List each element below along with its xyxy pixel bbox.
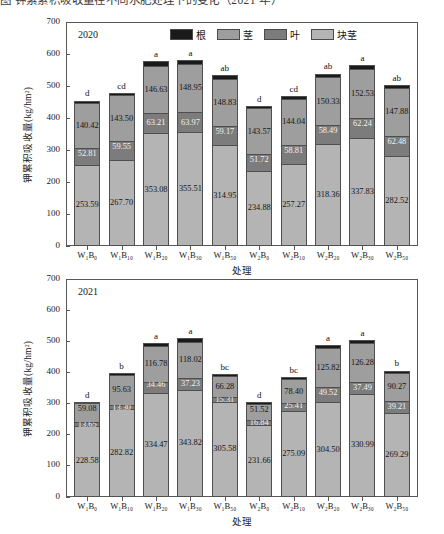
bar-segment-tuber: 330.99: [349, 394, 375, 497]
bar-segment-leaf: 59.17: [212, 126, 238, 145]
bar-segment-leaf: 37.23: [177, 378, 203, 390]
stacked-bar[interactable]: 231.6616.8451.52d: [246, 402, 272, 497]
stacked-bar[interactable]: 282.5262.48147.88ab: [384, 85, 410, 246]
stacked-bar[interactable]: 314.9559.17148.83ab: [212, 75, 238, 246]
y-tick-label: 700: [47, 273, 61, 283]
segment-value-label: 148.83: [213, 99, 236, 107]
segment-value-label: 62.48: [387, 138, 406, 146]
bar-segment-stem: 140.42: [74, 103, 100, 148]
segment-value-label: 15.31: [215, 396, 234, 404]
stacked-bar[interactable]: 282.8213.3095.63b: [109, 373, 135, 497]
bar-segment-stem: 152.53: [349, 69, 375, 118]
bar-segment-tuber: 257.27: [281, 164, 307, 246]
bar-segment-tuber: 231.66: [246, 425, 272, 497]
x-tick-label: W₁B₅₀: [208, 250, 242, 260]
bar-segment-root: [384, 85, 410, 89]
segment-value-label: 143.50: [110, 115, 133, 123]
plot-area-2021: 0100200300400500600700 2021 228.5813.655…: [66, 279, 418, 497]
bar-slot: 275.0925.4178.40bc: [276, 279, 310, 497]
bar-segment-stem: 147.88: [384, 88, 410, 135]
segment-value-label: 63.21: [147, 119, 166, 127]
x-axis-title-2021: 处理: [66, 514, 418, 528]
segment-value-label: 257.27: [282, 201, 305, 209]
stacked-bar[interactable]: 337.8362.24152.53a: [349, 65, 375, 246]
x-tick-7: W₂B₁₀: [276, 497, 310, 511]
segment-value-label: 148.95: [179, 84, 202, 92]
stacked-bar[interactable]: 353.0863.21146.63a: [143, 61, 169, 246]
x-tick-label: W₂B₀: [242, 250, 276, 260]
y-tick-label: 400: [47, 366, 61, 376]
bar-slot: 330.9937.49126.28a: [345, 279, 379, 497]
stacked-bar[interactable]: 228.5813.6559.08d: [74, 402, 100, 497]
stacked-bar[interactable]: 304.5049.52125.82a: [315, 345, 341, 497]
x-tick-label: W₂B₂₀: [311, 250, 345, 260]
y-tick-label: 600: [47, 304, 61, 314]
significance-letter: ab: [393, 73, 402, 83]
stacked-bar[interactable]: 334.4734.46116.78a: [143, 343, 169, 497]
stacked-bar[interactable]: 330.9937.49126.28a: [349, 340, 375, 497]
segment-value-label: 269.29: [385, 451, 408, 459]
x-tick-4: W₁B₃₀: [173, 246, 207, 260]
stacked-bar[interactable]: 355.5163.97148.95a: [177, 60, 203, 246]
bar-group-2020: 253.5952.81140.42d267.7059.55143.50cd353…: [66, 22, 418, 246]
x-tick-label: W₂B₃₀: [345, 250, 379, 260]
bar-segment-leaf: 62.48: [384, 136, 410, 156]
y-tick-label: 400: [47, 112, 61, 122]
y-tick-label: 100: [47, 208, 61, 218]
stacked-bar[interactable]: 343.8237.23118.02a: [177, 338, 203, 497]
segment-value-label: 95.63: [112, 386, 131, 394]
segment-value-label: 334.47: [145, 441, 168, 449]
bar-segment-tuber: 353.08: [143, 133, 169, 246]
bar-segment-tuber: 282.52: [384, 156, 410, 246]
x-tick-label: W₁B₂₀: [139, 501, 173, 511]
stacked-bar[interactable]: 275.0925.4178.40bc: [281, 377, 307, 497]
bar-segment-root: [74, 402, 100, 404]
significance-letter: a: [360, 328, 364, 338]
x-tick-1: W₁B₀: [70, 246, 104, 260]
bar-segment-root: [177, 338, 203, 341]
bar-segment-tuber: 337.83: [349, 138, 375, 246]
segment-value-label: 143.57: [248, 128, 271, 136]
stacked-bar[interactable]: 234.8851.72143.57d: [246, 106, 272, 246]
bar-slot: 267.7059.55143.50cd: [104, 22, 138, 246]
segment-value-label: 355.51: [179, 185, 202, 193]
stacked-bar[interactable]: 318.3658.49150.33ab: [315, 74, 341, 247]
segment-value-label: 275.09: [282, 450, 305, 458]
bar-segment-tuber: 305.58: [212, 402, 238, 497]
bar-segment-stem: 51.52: [246, 404, 272, 420]
x-tick-label: W₁B₅₀: [208, 501, 242, 511]
stacked-bar[interactable]: 267.7059.55143.50cd: [109, 93, 135, 246]
bar-segment-stem: 144.04: [281, 99, 307, 145]
segment-value-label: 90.27: [387, 383, 406, 391]
stacked-bar[interactable]: 269.2939.2190.27b: [384, 371, 410, 498]
stacked-bar[interactable]: 257.2758.81144.04cd: [281, 96, 307, 246]
x-tick-label: W₁B₃₀: [173, 250, 207, 260]
y-tick-label: 300: [47, 397, 61, 407]
segment-value-label: 62.24: [353, 120, 372, 128]
y-axis-title-2020: 钾累积吸收量(kg/hm²): [20, 50, 34, 220]
y-axis-title-2021: 钾累积吸收量(kg/hm²): [20, 304, 34, 474]
segment-value-label: 343.82: [179, 439, 202, 447]
bar-group-2021: 228.5813.6559.08d282.8213.3095.63b334.47…: [66, 279, 418, 497]
segment-value-label: 353.08: [145, 186, 168, 194]
y-tick-label: 600: [47, 48, 61, 58]
significance-letter: bc: [221, 362, 230, 372]
segment-value-label: 147.88: [385, 108, 408, 116]
stacked-bar[interactable]: 305.5815.3166.28bc: [212, 374, 238, 497]
segment-value-label: 318.36: [317, 191, 340, 199]
x-tick-1: W₁B₀: [70, 497, 104, 511]
significance-letter: a: [360, 53, 364, 63]
significance-letter: d: [257, 390, 262, 400]
segment-value-label: 13.65: [78, 421, 97, 429]
bar-segment-tuber: 334.47: [143, 393, 169, 497]
segment-value-label: 78.40: [284, 388, 303, 396]
y-tick-label: 200: [47, 176, 61, 186]
bar-segment-tuber: 318.36: [315, 144, 341, 246]
bar-segment-stem: 118.02: [177, 342, 203, 379]
x-axis-ticks-2020: W₁B₀W₁B₁₀W₁B₂₀W₁B₃₀W₁B₅₀W₂B₀W₂B₁₀W₂B₂₀W₂…: [66, 246, 418, 260]
x-tick-6: W₂B₀: [242, 246, 276, 260]
stacked-bar[interactable]: 253.5952.81140.42d: [74, 101, 100, 247]
chart-panel-2021: 钾累积吸收量(kg/hm²) 0100200300400500600700 20…: [0, 277, 444, 527]
x-tick-label: W₂B₁₀: [276, 501, 310, 511]
bar-segment-root: [109, 373, 135, 375]
